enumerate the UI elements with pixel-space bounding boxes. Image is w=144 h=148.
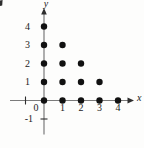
y-axis-neg1-label: -1 <box>25 113 33 124</box>
data-point <box>41 42 47 48</box>
data-point <box>41 97 47 103</box>
x-axis-label: x <box>136 92 142 103</box>
data-point <box>115 97 121 103</box>
data-point <box>59 79 65 85</box>
data-point <box>59 60 65 66</box>
y-tick-label: 4 <box>25 21 30 32</box>
y-axis-arrowhead-icon <box>41 8 47 15</box>
textbook-figure: 0 -1 x y 12341234 <box>0 0 144 148</box>
x-axis-arrowhead-icon <box>128 98 135 104</box>
scatter-plot: 0 -1 x y 12341234 <box>0 0 144 148</box>
data-point <box>96 79 102 85</box>
y-tick-label: 1 <box>25 76 30 87</box>
data-point <box>59 42 65 48</box>
y-axis-label: y <box>43 0 49 9</box>
data-point <box>78 97 84 103</box>
data-point <box>41 79 47 85</box>
y-tick-label: 2 <box>25 58 30 69</box>
data-point <box>41 60 47 66</box>
y-tick-label: 3 <box>25 39 30 50</box>
data-point <box>78 79 84 85</box>
data-point <box>78 60 84 66</box>
data-point <box>59 97 65 103</box>
origin-label: 0 <box>34 102 39 113</box>
scan-edge-artifact <box>0 0 3 6</box>
data-point <box>41 23 47 29</box>
data-point <box>96 97 102 103</box>
